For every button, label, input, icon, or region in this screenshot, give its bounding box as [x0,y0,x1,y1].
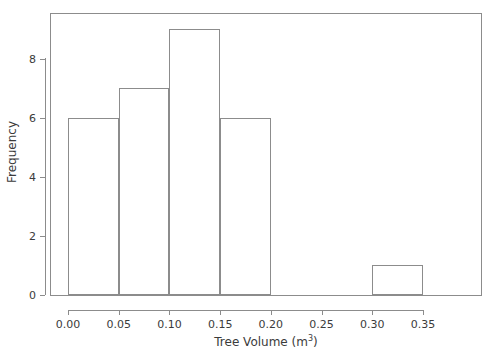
histogram-bar [119,88,170,295]
plot-area [50,13,482,296]
x-axis-tick [220,310,221,315]
y-axis-line [45,58,46,295]
y-axis-tick-label: 2 [29,229,36,242]
histogram-figure: 02468 0.000.050.100.150.200.250.300.35 T… [0,0,500,362]
y-axis-tick [40,236,45,237]
x-axis-tick-label: 0.25 [309,318,334,331]
y-axis-tick-label: 6 [29,111,36,124]
y-axis-tick-label: 4 [29,170,36,183]
y-axis-tick [40,177,45,178]
histogram-bar [220,118,271,295]
x-axis-tick-label: 0.10 [157,318,182,331]
y-axis-tick-label: 8 [29,52,36,65]
x-axis-title-tail: ) [313,335,318,349]
y-axis-tick [40,59,45,60]
x-axis-tick [119,310,120,315]
x-axis-tick [423,310,424,315]
y-axis-title: Frequency [5,92,19,212]
x-axis-tick [322,310,323,315]
x-axis-tick-label: 0.05 [106,318,131,331]
x-axis-tick-label: 0.20 [259,318,284,331]
y-axis-tick-label: 0 [29,289,36,302]
x-axis-title: Tree Volume (m3) [50,334,482,349]
x-axis-title-text: Tree Volume (m [214,335,308,349]
x-axis-tick [169,310,170,315]
x-axis-tick [68,310,69,315]
x-axis-tick-label: 0.30 [360,318,385,331]
y-axis-tick [40,118,45,119]
x-axis-tick [372,310,373,315]
x-axis-tick-label: 0.15 [208,318,233,331]
histogram-bar [372,265,423,295]
y-axis-tick [40,295,45,296]
x-axis-line [68,310,423,311]
x-axis-tick [271,310,272,315]
histogram-bar [169,29,220,295]
histogram-bar [68,118,119,295]
x-axis-tick-label: 0.35 [411,318,436,331]
x-axis-tick-label: 0.00 [56,318,81,331]
